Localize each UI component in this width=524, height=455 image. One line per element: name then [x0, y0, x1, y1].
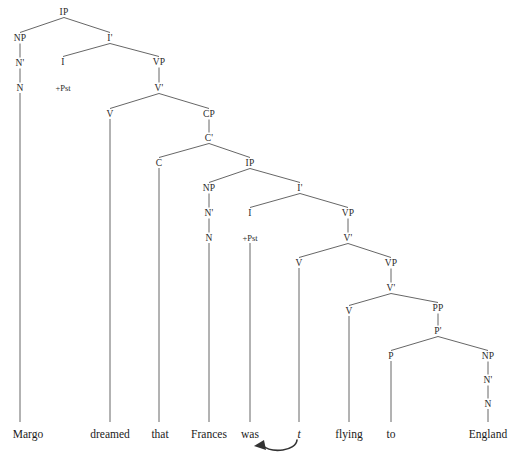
tree-node-pbar1: P': [434, 326, 441, 336]
tree-node-nbar3: N': [484, 375, 493, 385]
branch-cbar1-to-ip2: [209, 144, 250, 158]
branch-ibar1-to-i1: [63, 44, 110, 57]
tree-node-n3: N: [484, 399, 491, 409]
tree-node-pst2: +Pst: [242, 234, 257, 243]
terminal-word-flying: flying: [335, 428, 362, 440]
branch-ibar2-to-i2: [250, 194, 300, 208]
tree-node-np3: NP: [482, 351, 495, 361]
terminal-word-frances: Frances: [191, 428, 227, 440]
tree-node-ibar2: I': [297, 183, 302, 193]
tree-node-vp1: VP: [153, 57, 166, 67]
terminal-word-was: was: [241, 428, 259, 440]
tree-node-cp1: CP: [203, 109, 215, 119]
tree-node-p1: P: [388, 351, 393, 361]
tree-node-vbar2: V': [344, 233, 353, 243]
branch-vbar2-to-vp3: [348, 244, 391, 258]
tree-node-i1: I: [61, 57, 64, 67]
tree-lines-svg: [0, 0, 524, 455]
branch-cbar1-to-c1: [159, 144, 209, 158]
branch-ip1-to-ibar1: [64, 18, 110, 33]
terminal-word-margo: Margo: [13, 428, 43, 440]
tree-node-np2: NP: [203, 183, 216, 193]
tree-node-nbar2: N': [205, 208, 214, 218]
tree-node-pp1: PP: [433, 303, 444, 313]
tree-node-ip1: IP: [60, 7, 69, 17]
tree-node-n2: N: [205, 233, 212, 243]
tree-node-c1: C: [156, 158, 163, 168]
tree-node-nbar1: N': [16, 58, 25, 68]
syntax-tree-diagram: IPNPI'N'IVPN+PstV'VCPC'CIPNPI'N'IVPN+Pst…: [0, 0, 524, 455]
tree-node-vbar1: V': [155, 83, 164, 93]
branch-vbar3-to-v3: [349, 294, 391, 306]
tree-node-vp2: VP: [342, 208, 355, 218]
terminal-word-dreamed: dreamed: [90, 428, 130, 440]
tree-node-pst1: +Pst: [55, 84, 70, 93]
tree-node-v1: V: [106, 109, 113, 119]
tree-node-vbar3: V': [387, 283, 396, 293]
branch-ibar2-to-vp2: [300, 194, 348, 208]
terminal-word-england: England: [469, 428, 507, 440]
terminal-word-that: that: [151, 428, 168, 440]
branch-ip2-to-ibar2: [250, 169, 300, 183]
tree-node-i2: I: [248, 208, 251, 218]
tree-node-ip2: IP: [246, 158, 255, 168]
branch-ip1-to-np1: [20, 18, 64, 33]
branch-ibar1-to-vp1: [110, 44, 159, 57]
branch-vbar1-to-v1: [110, 94, 159, 109]
terminal-word-to: to: [387, 428, 396, 440]
tree-node-vp3: VP: [385, 258, 398, 268]
branch-lines: [20, 18, 488, 399]
tree-node-cbar1: C': [205, 133, 213, 143]
tree-node-ibar1: I': [107, 33, 112, 43]
branch-vbar1-to-cp1: [159, 94, 209, 109]
branch-ip2-to-np2: [209, 169, 250, 183]
tree-node-v3: V: [345, 306, 352, 316]
terminal-word-t: t: [297, 428, 300, 440]
branch-pbar1-to-p1: [391, 337, 438, 351]
tree-node-n1: N: [16, 83, 23, 93]
tree-node-v2: V: [295, 258, 302, 268]
branch-vbar2-to-v2: [299, 244, 348, 258]
tree-node-np1: NP: [14, 33, 27, 43]
branch-pbar1-to-np3: [438, 337, 488, 351]
branch-vbar3-to-pp1: [391, 294, 438, 303]
terminal-stem-lines: [20, 93, 488, 422]
trace-movement-arrow: [254, 440, 297, 450]
